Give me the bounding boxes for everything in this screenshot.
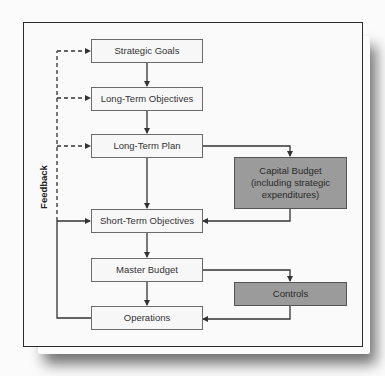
box-label: Long-Term Objectives bbox=[101, 93, 193, 105]
edge-feedback-solid bbox=[57, 221, 91, 318]
box-label: Strategic Goals bbox=[115, 45, 180, 57]
box-label: Controls bbox=[273, 288, 308, 300]
box-operations: Operations bbox=[91, 306, 203, 330]
box-long-term-plan: Long-Term Plan bbox=[91, 134, 203, 158]
box-capital-budget: Capital Budget (including strategic expe… bbox=[234, 157, 347, 209]
box-long-term-objectives: Long-Term Objectives bbox=[91, 87, 203, 111]
box-strategic-goals: Strategic Goals bbox=[91, 39, 203, 63]
box-label: Long-Term Plan bbox=[113, 140, 180, 152]
box-short-term-objectives: Short-Term Objectives bbox=[91, 209, 203, 233]
box-label: Master Budget bbox=[116, 264, 178, 276]
box-label-line: Capital Budget bbox=[259, 165, 321, 177]
box-controls: Controls bbox=[234, 282, 347, 306]
feedback-label: Feedback bbox=[38, 162, 52, 212]
box-label-line: (including strategic bbox=[251, 177, 330, 189]
edge-controls-to-ops bbox=[203, 306, 290, 319]
box-master-budget: Master Budget bbox=[91, 258, 203, 282]
box-label: Short-Term Objectives bbox=[100, 215, 194, 227]
edge-capital-to-sto bbox=[203, 209, 290, 221]
edge-ltp-to-capital bbox=[202, 146, 290, 156]
box-label: Operations bbox=[124, 312, 170, 324]
edge-mb-to-controls bbox=[202, 270, 290, 281]
box-label-line: expenditures) bbox=[262, 189, 320, 201]
